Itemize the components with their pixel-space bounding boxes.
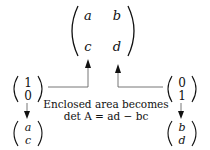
col1-left-paren <box>14 121 18 146</box>
matrix-entry-b: b <box>110 9 124 22</box>
col1-bottom: c <box>21 135 35 146</box>
e2-right-paren <box>192 76 196 102</box>
col1-right-paren <box>38 121 42 146</box>
connector-e1-line <box>48 66 88 87</box>
caption-line-1: Enclosed area becomes <box>31 98 181 110</box>
arrow-up-icon <box>85 59 91 68</box>
matrix-left-paren <box>72 6 78 56</box>
col1-top: a <box>21 122 35 133</box>
col2-left-paren <box>168 121 172 146</box>
arrow-up-icon <box>115 64 121 73</box>
caption-line-2: det A = ad − bc <box>31 110 181 122</box>
matrix-right-paren <box>128 6 134 56</box>
arrow-down-icon <box>24 111 30 119</box>
e1-left-paren <box>14 76 18 102</box>
e1-top: 1 <box>21 77 35 89</box>
col2-right-paren <box>192 121 196 146</box>
connector-e2-line <box>118 72 163 87</box>
matrix-entry-c: c <box>81 40 95 53</box>
col2-top: b <box>175 122 189 133</box>
matrix-entry-d: d <box>110 40 124 53</box>
e2-top: 0 <box>175 77 189 89</box>
col2-bottom: d <box>175 135 189 146</box>
matrix-entry-a: a <box>81 9 95 22</box>
